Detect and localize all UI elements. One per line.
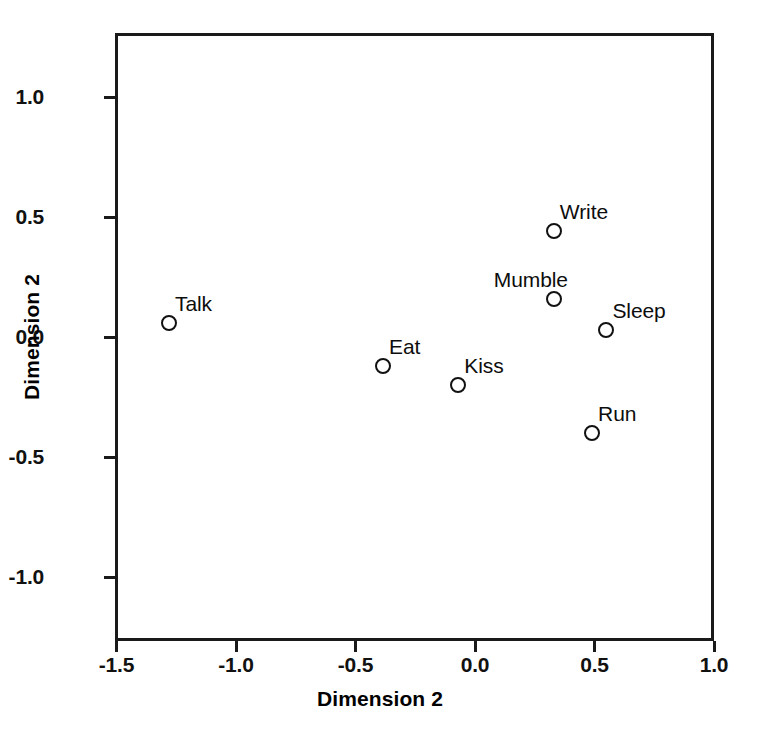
data-point-label: Talk xyxy=(175,292,212,316)
open-circle-marker-icon xyxy=(161,315,177,331)
x-tick-label: -1.0 xyxy=(218,653,253,677)
y-axis-title: Dimension 2 xyxy=(20,137,44,537)
y-tick-mark xyxy=(104,456,115,459)
open-circle-marker-icon xyxy=(584,425,600,441)
y-tick-mark xyxy=(104,96,115,99)
x-tick-mark xyxy=(713,641,716,652)
x-tick-label: 1.0 xyxy=(700,653,729,677)
x-axis-title: Dimension 2 xyxy=(0,687,760,711)
y-tick-label: -1.0 xyxy=(9,565,44,589)
scatter-plot-figure: -1.5-1.0-0.50.00.51.0 -1.0-0.50.00.51.0 … xyxy=(0,0,760,741)
data-point-label: Eat xyxy=(389,335,420,359)
y-tick-mark xyxy=(104,576,115,579)
data-point-label: Sleep xyxy=(612,299,665,323)
x-tick-mark xyxy=(474,641,477,652)
x-tick-mark xyxy=(354,641,357,652)
x-tick-label: -0.5 xyxy=(338,653,373,677)
data-point-label: Kiss xyxy=(464,354,503,378)
x-tick-label: 0.0 xyxy=(461,653,490,677)
x-tick-mark xyxy=(115,641,118,652)
x-tick-label: 0.5 xyxy=(580,653,609,677)
y-tick-mark xyxy=(104,216,115,219)
open-circle-marker-icon xyxy=(375,358,391,374)
data-point-label: Run xyxy=(598,402,636,426)
data-point-label: Write xyxy=(560,200,608,224)
x-tick-mark xyxy=(593,641,596,652)
data-point-label: Mumble xyxy=(494,268,568,292)
x-tick-label: -1.5 xyxy=(99,653,134,677)
open-circle-marker-icon xyxy=(546,291,562,307)
x-tick-mark xyxy=(235,641,238,652)
y-tick-mark xyxy=(104,336,115,339)
y-tick-label: 1.0 xyxy=(15,85,44,109)
